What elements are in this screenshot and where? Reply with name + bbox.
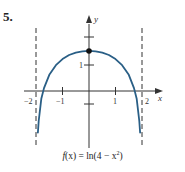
y-axis-label: y <box>93 14 98 24</box>
x-tick-label: −2 <box>24 97 33 106</box>
x-axis-label: x <box>157 93 162 103</box>
x-tick-label: −1 <box>56 97 65 106</box>
y-axis: y <box>86 14 98 148</box>
caption-body: (x) = ln(4 − x <box>65 151 116 161</box>
caption-close: ) <box>119 151 122 161</box>
y-ticks: 1 <box>79 37 94 104</box>
x-tick-label: 2 <box>145 97 149 106</box>
function-caption: f(x) = ln(4 − x2) <box>0 150 185 161</box>
y-intercept-point <box>86 48 92 54</box>
x-tick-label: 1 <box>113 97 117 106</box>
function-graph: x y −2 −1 1 2 1 <box>0 0 185 172</box>
y-axis-arrow-icon <box>86 15 92 23</box>
y-tick-label: 1 <box>79 61 83 70</box>
